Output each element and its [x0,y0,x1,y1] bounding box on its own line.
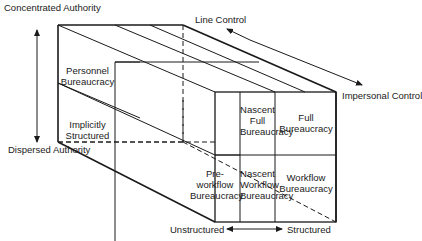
label-unstructured: Unstructured [170,224,224,235]
cell-nascent-workflow-bureaucracy: Nascent Workflow Bureaucracy [240,168,275,201]
cell-nascent-full-bureaucracy: Nascent Full Bureaucracy [240,104,275,137]
label-dispersed-authority: Dispersed Authority [8,144,90,155]
cell-personnel-bureaucracy: Personnel Bureaucracy [60,65,115,87]
cell-workflow-bureaucracy: Workflow Bureaucracy [276,172,336,194]
top-divider-1 [115,25,275,92]
cell-full-bureaucracy: Full Bureaucracy [276,112,336,134]
cell-pre-workflow-bureaucracy: Pre- workflow Bureaucracy [190,168,240,201]
control-axis-arrow-back [227,29,250,40]
label-line-control: Line Control [195,14,246,25]
top-divider-2 [150,25,305,92]
label-structured: Structured [287,224,331,235]
cell-implicitly-structured: Implicitly Structured [60,119,115,141]
label-concentrated-authority: Concentrated Authority [4,2,101,13]
label-impersonal-control: Impersonal Control [342,90,422,101]
top-right-edge [183,25,336,92]
